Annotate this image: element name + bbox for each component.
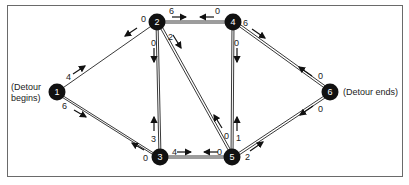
edge-5-6 [232, 92, 331, 159]
node-3: 3 [152, 149, 169, 166]
flow-5-6-fwd: 2 [245, 152, 250, 162]
flow-arrows [73, 17, 313, 152]
node-1: 1 [49, 84, 66, 101]
node-4: 4 [225, 14, 242, 31]
arrow-2-5-fwd [173, 35, 181, 48]
edge-4-6 [233, 20, 331, 92]
flow-3-5-fwd: 4 [172, 147, 177, 157]
flow-4-6-back: 0 [318, 71, 323, 81]
flow-2-5-back: 0 [224, 131, 229, 141]
arrow-1-2-fwd [73, 66, 85, 74]
flow-2-3-fwd: 0 [151, 38, 156, 48]
node-2-label: 2 [154, 17, 159, 27]
node-1-label: 1 [54, 87, 59, 97]
arrow-1-2-back [125, 28, 137, 36]
flow-4-5-fwd: 0 [234, 38, 239, 48]
node-6-label: 6 [327, 87, 332, 97]
flow-3-5-back: 0 [217, 147, 222, 157]
node-5: 5 [224, 149, 241, 166]
edge-1-3 [57, 92, 160, 159]
flow-1-2-back: 0 [141, 14, 146, 24]
flow-2-4-fwd: 6 [169, 6, 174, 16]
arrow-1-3-back [132, 143, 144, 150]
edge-2-4 [157, 21, 233, 23]
node-4-label: 4 [230, 17, 235, 27]
flow-4-5-back: 1 [236, 133, 241, 143]
node-2: 2 [149, 14, 166, 31]
node-5-label: 5 [229, 152, 234, 162]
node-3-label: 3 [157, 152, 162, 162]
node-6: 6 [322, 84, 339, 101]
edge-2-3 [156, 22, 161, 157]
edge-1-2 [57, 22, 157, 92]
flow-2-3-back: 3 [151, 134, 156, 144]
flow-2-5-fwd: 2 [168, 32, 173, 42]
flow-5-6-back: 0 [318, 104, 323, 114]
flow-2-4-back: 0 [215, 6, 220, 16]
flow-4-6-fwd: 6 [243, 18, 248, 28]
flow-1-2-fwd: 4 [66, 72, 71, 82]
flow-1-3-fwd: 6 [62, 101, 67, 111]
network-diagram: 4 0 6 0 6 0 0 3 2 0 4 0 0 1 6 0 2 0 1 2 … [0, 0, 409, 185]
flow-labels: 4 0 6 0 6 0 0 3 2 0 4 0 0 1 6 0 2 0 [62, 6, 323, 163]
flow-1-3-back: 0 [143, 153, 148, 163]
